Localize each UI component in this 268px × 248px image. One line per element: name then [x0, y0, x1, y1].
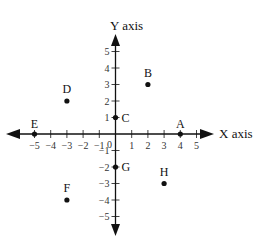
- point-c: [113, 115, 118, 120]
- x-tick-label: −4: [45, 140, 56, 151]
- x-tick-label: 3: [162, 140, 167, 151]
- x-tick-label: 1: [129, 140, 134, 151]
- point-f: [64, 197, 69, 202]
- point-label-b: B: [144, 66, 152, 80]
- x-tick-label: 4: [178, 140, 183, 151]
- x-tick-label: −2: [78, 140, 89, 151]
- x-axis-left-arrow-icon: [6, 129, 20, 139]
- point-label-h: H: [160, 165, 169, 179]
- point-label-g: G: [122, 160, 131, 174]
- x-tick-label: 5: [194, 140, 199, 151]
- y-tick-label: −4: [99, 195, 110, 206]
- point-a: [178, 131, 183, 136]
- y-tick-label: 3: [105, 79, 110, 90]
- axes: [6, 34, 214, 236]
- y-tick-label: 2: [105, 96, 110, 107]
- y-tick-label: 1: [105, 112, 110, 123]
- y-tick-label: −3: [99, 178, 110, 189]
- point-label-a: A: [176, 117, 185, 131]
- point-d: [64, 98, 69, 103]
- y-tick-label: −5: [99, 211, 110, 222]
- point-h: [162, 181, 167, 186]
- y-tick-label: 5: [105, 46, 110, 57]
- y-tick-label: 4: [105, 63, 110, 74]
- point-label-d: D: [63, 82, 72, 96]
- x-tick-label: −5: [29, 140, 40, 151]
- x-axis-title: X axis: [219, 126, 253, 141]
- x-axis-right-arrow-icon: [200, 129, 214, 139]
- point-e: [32, 131, 37, 136]
- point-b: [145, 82, 150, 87]
- y-axis-title: Y axis: [110, 18, 143, 33]
- origin-label: 0: [107, 139, 112, 150]
- point-label-e: E: [31, 117, 38, 131]
- y-tick-label: −2: [99, 162, 110, 173]
- point-label-f: F: [64, 181, 71, 195]
- point-label-c: C: [122, 111, 130, 125]
- x-tick-label: −3: [62, 140, 73, 151]
- coordinate-plane: −5−4−3−2−11234554321−1−2−3−4−5 X axis Y …: [0, 0, 268, 248]
- y-axis-down-arrow-icon: [111, 224, 120, 236]
- point-g: [113, 164, 118, 169]
- x-tick-label: 2: [145, 140, 150, 151]
- y-axis-up-arrow-icon: [111, 34, 120, 46]
